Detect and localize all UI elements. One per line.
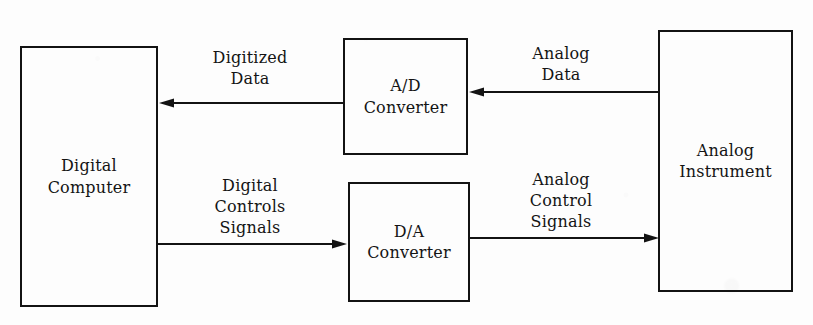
edge-digital-controls-signals [157, 240, 347, 249]
arrowhead-digitized-data [159, 99, 174, 108]
edge-label-digitized-data: Digitized Data [213, 48, 288, 90]
arrowhead-analog-control-signals [644, 234, 659, 243]
edge-analog-data [469, 88, 658, 97]
arrowhead-analog-data [469, 88, 484, 97]
edge-label-digital-controls-signals: Digital Controls Signals [215, 176, 286, 238]
node-label-analog-instrument: Analog Instrument [679, 140, 772, 182]
edge-digitized-data [159, 99, 343, 108]
node-digital-computer[interactable]: Digital Computer [20, 46, 158, 307]
diagram-canvas: Digital Computer A/D Converter D/A Conve… [0, 0, 813, 325]
node-analog-instrument[interactable]: Analog Instrument [658, 30, 793, 292]
node-ad-converter[interactable]: A/D Converter [343, 38, 468, 155]
node-label-ad-converter: A/D Converter [364, 75, 448, 117]
edge-analog-control-signals [470, 234, 659, 243]
edge-label-analog-data: Analog Data [532, 44, 590, 86]
arrowhead-digital-controls-signals [332, 240, 347, 249]
node-da-converter[interactable]: D/A Converter [348, 182, 470, 302]
edge-label-analog-control-signals: Analog Control Signals [530, 170, 592, 232]
node-label-da-converter: D/A Converter [367, 221, 451, 263]
node-label-digital-computer: Digital Computer [48, 155, 131, 197]
